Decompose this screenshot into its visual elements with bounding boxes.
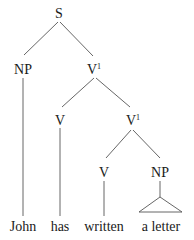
edge-s-vbar (60, 22, 93, 56)
edge-s-np (24, 22, 58, 55)
node-v-main: V (99, 165, 109, 180)
node-vbar-upper: V1 (87, 62, 101, 77)
node-v-aux: V (55, 113, 65, 128)
edge-vbar-vbar (96, 78, 130, 107)
triangle-icon (139, 197, 182, 212)
word-john: John (10, 219, 36, 234)
tree-edges (23, 22, 182, 216)
word-written: written (84, 219, 124, 234)
node-np-object: NP (151, 165, 169, 180)
edge-vbar2-v (106, 130, 131, 158)
node-np-subject: NP (14, 62, 32, 77)
syntax-tree-diagram: S NP V1 V V1 V NP John has written a let… (0, 0, 194, 240)
word-a-letter: a letter (142, 219, 181, 234)
node-vbar-lower: V1 (126, 113, 140, 128)
node-s: S (55, 6, 63, 21)
word-has: has (51, 219, 70, 234)
edge-vbar-v (62, 78, 94, 107)
edge-vbar2-np (133, 130, 160, 158)
